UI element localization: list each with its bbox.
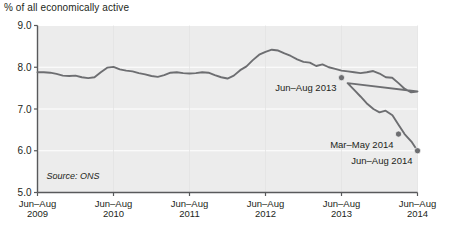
x-tick-label-year: 2012 <box>255 208 276 219</box>
x-tick-label-year: 2010 <box>103 208 124 219</box>
y-tick-label: 7.0 <box>18 104 32 115</box>
x-tick-label-year: 2011 <box>179 208 199 219</box>
annotation-label: Mar–May 2014 <box>330 139 393 150</box>
y-tick-label: 6.0 <box>18 145 32 156</box>
y-tick-label: 5.0 <box>18 187 32 198</box>
x-tick-label-year: 2013 <box>331 208 352 219</box>
data-point-marker <box>338 75 344 81</box>
data-point-marker <box>414 148 420 154</box>
annotation-label: Jun–Aug 2014 <box>351 155 412 166</box>
y-tick-label: 9.0 <box>18 20 32 31</box>
x-axis-ticks: Jun–Aug2009Jun–Aug2010Jun–Aug2011Jun–Aug… <box>19 193 437 219</box>
x-tick-label-year: 2014 <box>407 208 428 219</box>
chart-plot-svg: 9.08.07.06.05.0 Jun–Aug2009Jun–Aug2010Ju… <box>0 0 458 231</box>
unemployment-rate-chart: % of all economically active 9.08.07.06.… <box>0 0 458 231</box>
data-point-marker <box>395 131 401 137</box>
x-tick-label-year: 2009 <box>27 208 48 219</box>
y-axis-ticks: 9.08.07.06.05.0 <box>18 20 38 198</box>
y-tick-label: 8.0 <box>18 62 32 73</box>
source-text: Source: ONS <box>47 171 100 181</box>
source-note: Source: ONS <box>47 171 100 181</box>
annotation-label: Jun–Aug 2013 <box>275 82 336 93</box>
